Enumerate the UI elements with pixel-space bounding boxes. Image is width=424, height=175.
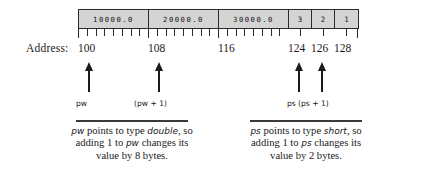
memory-cell-value: 20000.0 <box>163 14 204 23</box>
caption-text: changes its <box>139 137 188 148</box>
memory-bar: 10000.020000.030000.0321 <box>78 9 359 29</box>
address-label: 116 <box>218 42 235 54</box>
pointer-arrow-ps <box>293 62 305 92</box>
memory-cell-0: 10000.0 <box>79 10 149 28</box>
caption-line-1: ps points to type short, so <box>222 125 390 138</box>
address-label: 124 <box>288 42 305 54</box>
memory-cell-5: 1 <box>335 10 358 28</box>
ruler-tick <box>131 29 132 36</box>
address-label: 128 <box>334 42 351 54</box>
ruler-tick <box>183 29 184 36</box>
ps-caption: ps points to type short, soadding 1 to p… <box>222 120 390 162</box>
memory-cell-4: 2 <box>312 10 335 28</box>
caption-type: double <box>147 126 178 136</box>
memory-cell-value: 2 <box>321 14 325 23</box>
caption-line-3: value by 2 bytes. <box>222 150 390 163</box>
arrow-shaft <box>298 69 300 92</box>
memory-cell-3: 3 <box>289 10 312 28</box>
ruler-tick <box>262 29 263 36</box>
ruler-tick <box>271 29 272 36</box>
address-label: 108 <box>148 42 165 54</box>
ruler-tick <box>279 29 280 36</box>
arrow-shaft <box>321 69 323 92</box>
arrow-shaft <box>88 69 90 92</box>
caption-var: ps <box>250 126 260 136</box>
caption-text: , so <box>178 125 193 136</box>
ruler-tick <box>104 29 105 36</box>
ruler-tick <box>323 29 324 36</box>
memory-cell-value: 10000.0 <box>93 14 134 23</box>
ruler-tick <box>148 29 149 38</box>
address-label: 126 <box>311 42 328 54</box>
caption-text: changes its <box>312 137 361 148</box>
ruler-tick <box>236 29 237 36</box>
caption-line-2: adding 1 to ps changes its <box>222 137 390 150</box>
ruler-tick <box>218 29 219 38</box>
pointer-arrow-ps-plus-1 <box>316 62 328 92</box>
pw-caption: pw points to type double, soadding 1 to … <box>48 120 216 162</box>
ruler-tick <box>78 29 79 38</box>
ruler-tick <box>87 29 88 36</box>
ruler-tick <box>209 29 210 36</box>
pointer-label-ps-plus-1: (ps + 1) <box>298 99 329 108</box>
ruler-tick <box>300 29 301 36</box>
pointer-label-ps: ps <box>287 99 296 108</box>
memory-cell-value: 3 <box>298 14 302 23</box>
caption-text: adding 1 to <box>251 137 301 148</box>
caption-var: pw <box>71 126 84 136</box>
ruler-tick <box>244 29 245 36</box>
caption-text: , so <box>347 125 362 136</box>
arrow-shaft <box>158 69 160 92</box>
pointer-arithmetic-diagram: 10000.020000.030000.0321 Address: 100108… <box>0 0 424 175</box>
address-ruler <box>78 29 359 38</box>
ruler-tick <box>122 29 123 36</box>
memory-cell-value: 1 <box>344 14 348 23</box>
pointer-arrow-pw <box>83 62 95 92</box>
ruler-tick <box>346 29 347 36</box>
pointer-label-pw-plus-1: (pw + 1) <box>134 99 167 108</box>
caption-var: ps <box>301 138 311 148</box>
ruler-tick <box>227 29 228 36</box>
ruler-tick <box>253 29 254 36</box>
memory-cell-value: 30000.0 <box>233 14 274 23</box>
caption-text: adding 1 to <box>76 137 126 148</box>
caption-line-2: adding 1 to pw changes its <box>48 137 216 150</box>
address-label: 100 <box>78 42 95 54</box>
address-row-caption: Address: <box>26 42 69 54</box>
caption-text: points to type <box>84 125 147 136</box>
caption-text: points to type <box>261 125 324 136</box>
ruler-tick <box>139 29 140 36</box>
ruler-tick <box>192 29 193 36</box>
ruler-tick <box>166 29 167 36</box>
pointer-arrow-pw-plus-1 <box>153 62 165 92</box>
ruler-tick <box>357 29 358 38</box>
ruler-tick <box>201 29 202 36</box>
caption-line-3: value by 8 bytes. <box>48 150 216 163</box>
memory-cell-2: 30000.0 <box>219 10 289 28</box>
caption-type: short <box>324 126 347 136</box>
caption-var: pw <box>126 138 139 148</box>
memory-cell-1: 20000.0 <box>149 10 219 28</box>
caption-rule <box>76 120 188 122</box>
ruler-tick <box>113 29 114 36</box>
ruler-tick <box>96 29 97 36</box>
caption-line-1: pw points to type double, so <box>48 125 216 138</box>
caption-rule <box>250 120 362 122</box>
ruler-tick <box>157 29 158 36</box>
ruler-tick <box>174 29 175 36</box>
pointer-label-pw: pw <box>76 99 87 108</box>
